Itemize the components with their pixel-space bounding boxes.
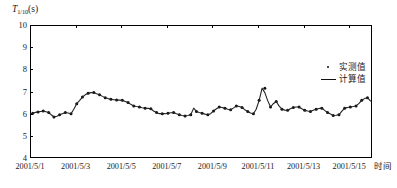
x-axis-tick-label: 2001/5/11	[242, 162, 275, 171]
data-point	[263, 87, 266, 90]
legend-label: 实测值	[337, 62, 366, 72]
y-axis-tick-mark	[30, 69, 33, 70]
x-axis-tick-mark	[212, 25, 213, 28]
x-axis-tick-label: 2001/5/1	[15, 162, 44, 171]
legend-marker	[319, 66, 337, 69]
legend-line-marker	[321, 79, 336, 80]
x-axis-tick-label: 2001/5/3	[61, 162, 90, 171]
x-axis-tick-mark	[121, 25, 122, 28]
legend-dot-marker	[327, 66, 330, 69]
y-axis-tick-mark	[30, 136, 33, 137]
y-axis-title: T1/10(s)	[12, 4, 38, 15]
x-axis-tick-mark	[258, 25, 259, 28]
y-axis-tick-label: 7	[23, 87, 27, 96]
y-axis-tick-mark	[30, 47, 33, 48]
series-line-calculated	[30, 88, 371, 117]
y-axis-tick-label: 8	[23, 65, 27, 74]
y-axis-title-subscript: 1/10	[17, 8, 28, 15]
legend-item: 计算值	[319, 73, 377, 85]
legend-marker	[319, 79, 337, 80]
y-axis-title-unit: (s)	[28, 4, 38, 14]
legend: 实测值计算值	[319, 61, 377, 85]
y-axis-tick-label: 4	[23, 154, 27, 163]
x-axis-tick-mark	[76, 25, 77, 28]
y-axis-tick-label: 5	[23, 132, 27, 141]
y-axis-tick-label: 9	[23, 43, 27, 52]
x-axis-tick-label: 2001/5/7	[152, 162, 181, 171]
legend-label: 计算值	[337, 74, 366, 84]
legend-item: 实测值	[319, 61, 377, 73]
x-axis-tick-label: 2001/5/9	[198, 162, 227, 171]
x-axis-tick-label: 2001/5/15	[333, 162, 366, 171]
plot-area: 45678910 实测值计算值	[30, 25, 372, 158]
chart-root: T1/10(s) 45678910 实测值计算值 2001/5/12001/5/…	[0, 0, 397, 188]
x-axis-tick-mark	[304, 25, 305, 28]
series-canvas	[30, 25, 372, 158]
y-axis-tick-label: 10	[19, 21, 28, 30]
x-axis-tick-mark	[349, 25, 350, 28]
x-axis-title: 时间	[374, 162, 392, 171]
y-axis-tick-label: 6	[23, 109, 27, 118]
y-axis-tick-mark	[30, 92, 33, 93]
x-axis-tick-label: 2001/5/13	[287, 162, 320, 171]
series-points-measured	[31, 87, 369, 119]
x-axis-tick-label: 2001/5/5	[107, 162, 136, 171]
y-axis-tick-mark	[30, 114, 33, 115]
x-axis-tick-mark	[167, 25, 168, 28]
